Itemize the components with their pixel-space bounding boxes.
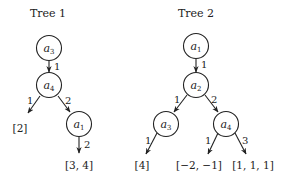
tree-1-edge-label: 1 — [54, 61, 60, 72]
tree-1-leaf: [3, 4] — [65, 159, 93, 171]
tree-2-node-a3: a3 — [154, 112, 179, 137]
tree-2-edge-label: 1 — [201, 59, 207, 70]
tree-2: Tree 2 1 1 2 1 1 3 a1 a2 a3 a4 — [135, 7, 274, 171]
tree-1-leaf: [2] — [13, 122, 28, 134]
tree-2-title: Tree 2 — [178, 7, 214, 20]
tree-1-node-a3: a3 — [37, 36, 62, 61]
tree-2-node-a2: a2 — [184, 73, 209, 98]
tree-1-title: Tree 1 — [30, 7, 66, 20]
tree-2-edge-label: 1 — [145, 135, 151, 146]
tree-1-node-a1: a1 — [67, 112, 92, 137]
tree-1: Tree 1 1 1 2 2 a3 a4 a1 [2] [3, 4] — [13, 7, 94, 171]
tree-1-edge-label: 1 — [27, 95, 33, 106]
tree-2-leaf: [1, 1, 1] — [232, 159, 274, 171]
tree-2-edge-label: 1 — [205, 135, 211, 146]
tree-1-edge-label: 2 — [65, 95, 71, 106]
tree-2-leaf: [−2, −1] — [176, 159, 222, 171]
decision-trees-diagram: Tree 1 1 1 2 2 a3 a4 a1 [2] [3, 4] Tree … — [0, 0, 285, 181]
tree-1-edge-label: 2 — [84, 139, 90, 150]
tree-2-edge-label: 3 — [242, 135, 248, 146]
tree-2-leaf: [4] — [135, 159, 150, 171]
tree-2-edge-label: 1 — [174, 94, 180, 105]
tree-2-node-a4: a4 — [214, 112, 239, 137]
tree-2-edge-label: 2 — [211, 94, 217, 105]
tree-1-node-a4: a4 — [37, 73, 62, 98]
tree-2-node-a1: a1 — [184, 34, 209, 59]
